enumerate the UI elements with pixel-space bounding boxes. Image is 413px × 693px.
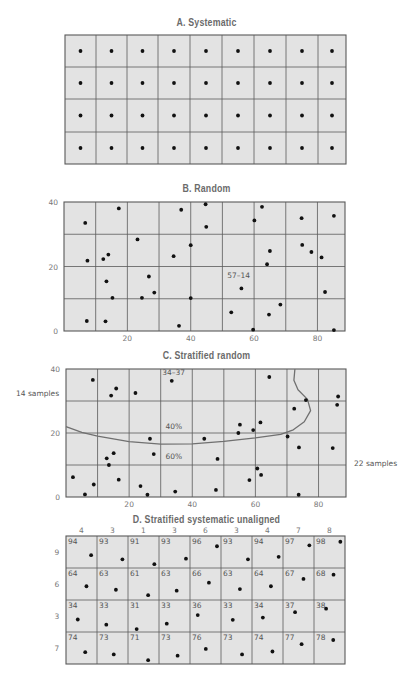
column-offset-label: 8 — [327, 526, 332, 535]
sample-point — [184, 557, 188, 561]
sample-point — [141, 49, 145, 53]
sample-point — [148, 437, 152, 441]
sample-point — [165, 622, 169, 626]
cell-number: 37 — [285, 601, 295, 610]
sample-point — [109, 394, 113, 398]
sample-point — [300, 216, 304, 220]
sample-point — [104, 623, 108, 627]
sample-point — [175, 589, 179, 593]
sample-point — [332, 328, 336, 332]
x-tick-label: 80 — [314, 500, 324, 509]
sample-point — [135, 627, 139, 631]
sample-point — [300, 243, 304, 247]
sample-point — [204, 114, 208, 118]
cell-number: 93 — [99, 537, 109, 546]
sample-point — [202, 437, 206, 441]
cell-number: 77 — [285, 633, 295, 642]
sample-point — [278, 303, 282, 307]
column-offset-label: 4 — [79, 526, 84, 535]
sample-point — [92, 483, 96, 487]
sample-point — [172, 49, 176, 53]
cell-number: 76 — [192, 633, 202, 642]
sample-point — [114, 588, 118, 592]
sample-point — [236, 114, 240, 118]
sample-point — [204, 81, 208, 85]
sample-point — [117, 207, 121, 211]
sample-point — [251, 428, 255, 432]
cell-number: 74 — [68, 633, 78, 642]
sample-point — [307, 543, 311, 547]
cell-number: 96 — [192, 537, 202, 546]
sample-point — [79, 114, 83, 118]
sample-point — [300, 146, 304, 150]
sample-point — [238, 423, 242, 427]
x-tick-label: 60 — [249, 334, 259, 343]
sample-point — [300, 642, 304, 646]
sample-point — [152, 291, 156, 295]
sample-point — [176, 654, 180, 658]
sample-point — [91, 378, 95, 382]
column-offset-label: 1 — [141, 526, 146, 535]
sample-point — [330, 114, 334, 118]
panel-c-stratified-random-plot: 204060800204034–3740%60% — [50, 365, 346, 509]
sample-point — [229, 310, 233, 314]
sample-point — [332, 214, 336, 218]
sample-point — [141, 114, 145, 118]
sample-point — [293, 610, 297, 614]
sample-point — [268, 146, 272, 150]
sample-point — [110, 81, 114, 85]
sample-point — [332, 573, 336, 577]
sample-point — [172, 114, 176, 118]
cell-number: 33 — [223, 601, 233, 610]
row-offset-label: 6 — [55, 580, 60, 589]
sample-point — [104, 319, 108, 323]
sample-point — [215, 544, 219, 548]
sample-point — [320, 256, 324, 260]
sample-point — [139, 484, 143, 488]
row-offset-label: 7 — [55, 644, 60, 653]
sample-point — [173, 490, 177, 494]
y-tick-label: 0 — [53, 327, 58, 336]
sample-point — [330, 49, 334, 53]
sample-point — [83, 650, 87, 654]
sample-point — [172, 254, 176, 258]
plot-annotation: 34–37 — [162, 368, 185, 377]
x-tick-label: 60 — [251, 500, 261, 509]
sample-point — [141, 81, 145, 85]
sample-point — [268, 114, 272, 118]
column-offset-label: 3 — [110, 526, 115, 535]
sample-point — [297, 493, 301, 497]
sample-point — [85, 319, 89, 323]
x-tick-label: 20 — [124, 500, 134, 509]
sample-point — [189, 296, 193, 300]
sample-point — [338, 540, 342, 544]
panel-b-random-plot: 204060800204057–14 — [48, 198, 345, 343]
column-offset-label: 6 — [203, 526, 208, 535]
sample-point — [147, 275, 151, 279]
sample-point — [71, 475, 75, 479]
sample-point — [134, 391, 138, 395]
cell-number: 63 — [223, 569, 233, 578]
sample-point — [267, 313, 271, 317]
cell-number: 94 — [68, 537, 78, 546]
sample-point — [110, 49, 114, 53]
sample-point — [236, 146, 240, 150]
sample-point — [335, 403, 339, 407]
sample-point — [252, 218, 256, 222]
cell-number: 97 — [285, 537, 295, 546]
sample-point — [231, 618, 235, 622]
cell-number: 67 — [285, 569, 295, 578]
sample-point — [110, 114, 114, 118]
y-tick-label: 0 — [55, 493, 60, 502]
x-tick-label: 40 — [187, 500, 197, 509]
sample-point — [240, 653, 244, 657]
sample-point — [140, 296, 144, 300]
sample-point — [146, 593, 150, 597]
cell-number: 68 — [316, 569, 326, 578]
sample-point — [236, 49, 240, 53]
cell-number: 91 — [130, 537, 140, 546]
x-tick-label: 40 — [186, 334, 196, 343]
sample-point — [152, 452, 156, 456]
sample-point — [214, 488, 218, 492]
sample-point — [204, 49, 208, 53]
